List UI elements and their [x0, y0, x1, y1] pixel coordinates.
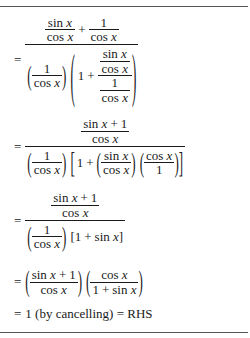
derivation-step-5: = 1 (by cancelling) = RHS [14, 305, 153, 323]
main-fraction: sin x cos x + 1 cos x ( 1 cos x ) [25, 16, 138, 105]
denominator: ( 1 cos x ) [ 1 + ( sin x cos x ) [25, 147, 185, 177]
derivation-step-3: = sin x+1 cos x ( 1 cos x ) [1+sin x] [14, 186, 125, 256]
main-fraction: sin x+1 cos x ( 1 cos x ) [ 1 + ( [25, 117, 185, 177]
equals-sign: = [14, 213, 21, 229]
denominator: ( 1 cos x ) [1+sin x] [25, 221, 125, 251]
numerator: sin x cos x + 1 cos x [43, 16, 121, 44]
conclusion-text: 1 (by cancelling) = RHS [25, 306, 152, 322]
numerator: sin x+1 cos x [79, 117, 131, 145]
denominator: ( 1 cos x ) ( 1 + sin x [25, 45, 138, 105]
derivation-step-2: = sin x+1 cos x ( 1 cos x ) [ [14, 112, 185, 182]
equals-sign: = [14, 139, 21, 155]
derivation-step-1: = sin x cos x + 1 cos x ( 1 cos x [14, 10, 138, 110]
fraction-one-over-cos: 1 cos x [89, 16, 119, 44]
equals-sign: = [14, 52, 21, 68]
bottom-rule [0, 332, 248, 333]
main-fraction: sin x+1 cos x ( 1 cos x ) [1+sin x] [25, 191, 125, 251]
equals-sign: = [14, 306, 21, 322]
numerator: sin x+1 cos x [49, 191, 101, 219]
top-rule [0, 6, 248, 7]
derivation-step-4: = ( sin x+1 cos x ) ( cos x 1+sin x ) [14, 262, 143, 302]
equals-sign: = [14, 274, 21, 290]
